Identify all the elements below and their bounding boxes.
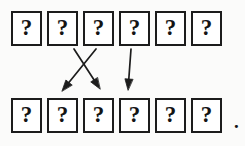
- question-mark-glyph: ?: [129, 16, 141, 39]
- question-mark-glyph: ?: [93, 16, 105, 39]
- bottom-cell-5[interactable]: ?: [155, 98, 186, 133]
- bottom-cell-6[interactable]: ?: [191, 98, 222, 133]
- top-cell-3[interactable]: ?: [83, 11, 114, 46]
- bottom-cell-3[interactable]: ?: [83, 98, 114, 133]
- arrow-1-shaft: [68, 49, 96, 84]
- question-mark-glyph: ?: [21, 16, 33, 39]
- top-cell-1[interactable]: ?: [11, 11, 42, 46]
- top-cell-6[interactable]: ?: [191, 11, 222, 46]
- arrow-2-head: [91, 78, 100, 89]
- arrow-3-head: [125, 79, 133, 90]
- top-cell-5[interactable]: ?: [155, 11, 186, 46]
- arrow-1-head: [62, 80, 72, 91]
- question-mark-glyph: ?: [201, 103, 213, 126]
- bottom-cell-1[interactable]: ?: [11, 98, 42, 133]
- question-mark-glyph: ?: [129, 103, 141, 126]
- question-mark-glyph: ?: [201, 16, 213, 39]
- top-cell-4[interactable]: ?: [119, 11, 150, 46]
- question-mark-glyph: ?: [57, 16, 69, 39]
- bottom-cell-2[interactable]: ?: [47, 98, 78, 133]
- question-mark-glyph: ?: [21, 103, 33, 126]
- question-mark-glyph: ?: [93, 103, 105, 126]
- question-mark-glyph: ?: [57, 103, 69, 126]
- bottom-cell-4[interactable]: ?: [119, 98, 150, 133]
- arrow-2-shaft: [74, 49, 95, 81]
- question-mark-glyph: ?: [165, 103, 177, 126]
- top-row: ? ? ? ? ? ?: [11, 11, 222, 46]
- question-mark-glyph: ?: [165, 16, 177, 39]
- arrow-3-shaft: [129, 49, 131, 81]
- trailing-period: .: [234, 112, 239, 131]
- arrows-group: [62, 49, 133, 91]
- permutation-diagram: ? ? ? ? ? ? ? ? ? ? ?: [0, 0, 245, 146]
- bottom-row: ? ? ? ? ? ?: [11, 98, 222, 133]
- top-cell-2[interactable]: ?: [47, 11, 78, 46]
